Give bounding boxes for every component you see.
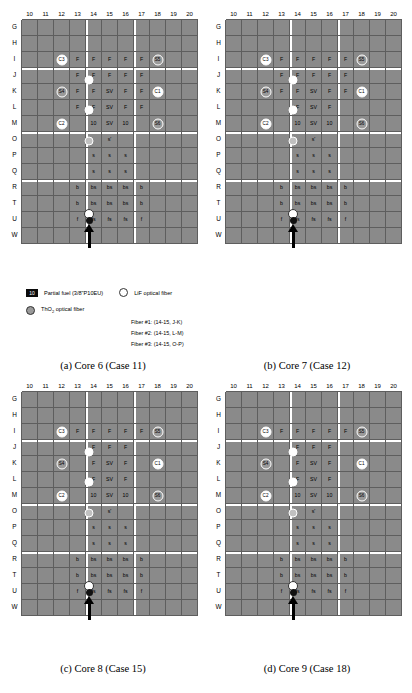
row-header-O: O: [8, 132, 22, 148]
core-cell-17-H: [338, 36, 354, 52]
core-cell-14-Q: s: [290, 536, 306, 552]
core-cell-12-J: [258, 440, 274, 456]
core-cell-16-R: bs: [118, 180, 134, 196]
core-cell-15-L: SV: [306, 472, 322, 488]
core-cell-16-L: F: [118, 100, 134, 116]
core-cell-15-W: [102, 600, 118, 616]
core-cell-11-J: [242, 440, 258, 456]
core-cell-17-T: b: [338, 196, 354, 212]
core-cell-19-U: [370, 212, 386, 228]
row-header-I: I: [8, 424, 22, 440]
core-cell-19-G: [166, 20, 182, 36]
core-cell-18-U: [150, 212, 166, 228]
core-cell-20-W: [182, 228, 198, 244]
core-cell-18-M: S6: [150, 488, 166, 504]
core-cell-11-O: [38, 504, 54, 520]
core-cell-18-G: [354, 20, 370, 36]
core-cell-12-H: [258, 36, 274, 52]
core-cell-13-R: b: [274, 552, 290, 568]
core-cell-15-T: bs: [102, 196, 118, 212]
core-cell-14-I: F: [86, 424, 102, 440]
core-cell-17-Q: [134, 164, 150, 180]
column-header-17: 17: [338, 380, 354, 392]
core-cell-11-G: [242, 392, 258, 408]
core-cell-11-H: [242, 36, 258, 52]
core-cell-12-P: [54, 148, 70, 164]
marker-circle-c3-icon: C3: [56, 426, 67, 437]
core-cell-19-Q: [370, 536, 386, 552]
core-cell-19-O: [370, 132, 386, 148]
core-cell-20-L: [386, 100, 402, 116]
core-cell-13-I: F: [70, 52, 86, 68]
core-cell-10-I: [226, 424, 242, 440]
table-row: IC3FFFFFS5: [212, 52, 402, 68]
core-cell-13-M: [274, 488, 290, 504]
core-cell-13-M: [70, 116, 86, 132]
core-cell-20-P: [182, 148, 198, 164]
core-cell-18-H: [150, 36, 166, 52]
core-cell-16-W: [118, 228, 134, 244]
core-cell-19-I: [166, 52, 182, 68]
panel-core-7: 1011121314151617181920GHIC3FFFFFS5JFFFFF…: [212, 8, 402, 244]
core-cell-15-P: s: [306, 520, 322, 536]
core-cell-14-M: 10: [86, 488, 102, 504]
column-header-15: 15: [102, 8, 118, 20]
core-cell-12-U: [54, 584, 70, 600]
core-cell-18-I: S5: [354, 424, 370, 440]
core-cell-17-R: b: [338, 180, 354, 196]
table-row: Qsss: [212, 164, 402, 180]
core-cell-10-J: [226, 68, 242, 84]
column-header-20: 20: [386, 380, 402, 392]
core-cell-19-J: [370, 440, 386, 456]
core-cell-14-G: [290, 20, 306, 36]
core-cell-11-U: [242, 212, 258, 228]
row-header-L: L: [212, 472, 226, 488]
core-cell-17-T: b: [134, 196, 150, 212]
core-cell-16-O: [322, 504, 338, 520]
partial-fuel-swatch: 10: [26, 289, 38, 297]
core-cell-18-O: [354, 132, 370, 148]
fiber-2-lif-dot: [289, 106, 298, 115]
core-cell-14-R: bs: [290, 180, 306, 196]
core-cell-18-W: [150, 228, 166, 244]
core-cell-19-L: [166, 472, 182, 488]
core-cell-19-T: [166, 568, 182, 584]
core-cell-10-O: [226, 132, 242, 148]
column-header-row: 1011121314151617181920: [8, 380, 198, 392]
row-header-K: K: [212, 84, 226, 100]
core-cell-14-R: bs: [290, 552, 306, 568]
core-cell-19-R: [370, 552, 386, 568]
table-row: MC210SV10S6: [8, 116, 198, 132]
core-cell-19-M: [166, 488, 182, 504]
core-cell-19-J: [370, 68, 386, 84]
table-row: Rbbsbsbsb: [212, 180, 402, 196]
column-header-10: 10: [22, 8, 38, 20]
core-cell-14-G: [290, 392, 306, 408]
core-cell-12-Q: [258, 164, 274, 180]
core-cell-19-U: [166, 584, 182, 600]
core-cell-17-L: [338, 472, 354, 488]
core-cell-11-M: [242, 488, 258, 504]
row-header-G: G: [212, 20, 226, 36]
core-cell-11-P: [38, 520, 54, 536]
core-cell-20-I: [386, 424, 402, 440]
row-header-O: O: [212, 132, 226, 148]
core-cell-18-P: [150, 520, 166, 536]
core-cell-19-G: [166, 392, 182, 408]
core-cell-12-W: [258, 600, 274, 616]
core-cell-19-K: [370, 456, 386, 472]
core-cell-16-U: fs: [322, 584, 338, 600]
core-cell-10-L: [226, 100, 242, 116]
core-cell-11-L: [38, 472, 54, 488]
core-cell-11-W: [242, 228, 258, 244]
core-cell-16-M: 10: [118, 116, 134, 132]
table-row: IC3FFFFFS5: [212, 424, 402, 440]
core-cell-16-I: F: [118, 424, 134, 440]
core-cell-13-G: [70, 392, 86, 408]
table-row: LFSVF: [212, 472, 402, 488]
core-cell-11-R: [38, 552, 54, 568]
core-cell-10-P: [22, 520, 38, 536]
core-cell-19-T: [370, 568, 386, 584]
core-cell-17-K: F: [338, 84, 354, 100]
core-cell-16-I: F: [322, 424, 338, 440]
